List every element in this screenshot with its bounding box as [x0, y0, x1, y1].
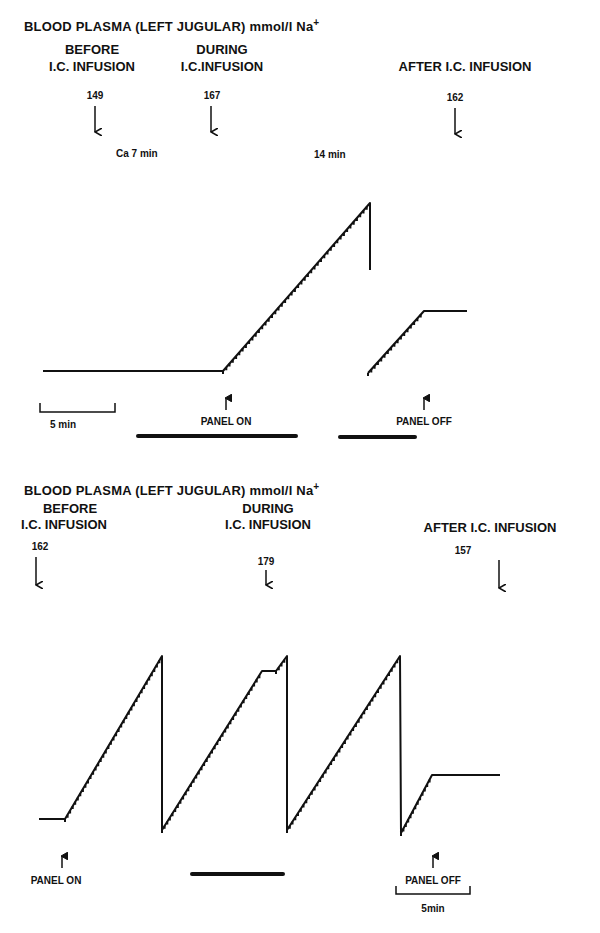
bottom-panel: BLOOD PLASMA (LEFT JUGULAR) mmol/l Na+ B…: [21, 481, 556, 914]
top-during-label-2: I.C.INFUSION: [181, 59, 263, 74]
figure: BLOOD PLASMA (LEFT JUGULAR) mmol/l Na+ B…: [0, 0, 600, 933]
bottom-panel-on-label: PANEL ON: [31, 875, 82, 886]
top-14min-note: 14 min: [314, 149, 346, 160]
top-before-label-1: BEFORE: [65, 42, 120, 57]
top-trace: [43, 203, 370, 371]
bottom-scale-label: 5min: [421, 903, 444, 914]
bottom-panel-off-label: PANEL OFF: [405, 875, 461, 886]
top-value-before: 149: [87, 90, 104, 101]
trace-texture: [65, 660, 430, 836]
bottom-during-label-1: DURING: [242, 501, 293, 516]
bottom-before-label-1: BEFORE: [43, 501, 98, 516]
top-during-label-1: DURING: [196, 42, 247, 57]
bottom-trace: [39, 656, 500, 833]
top-panel-off-label: PANEL OFF: [396, 416, 452, 427]
top-title: BLOOD PLASMA (LEFT JUGULAR) mmol/l Na+: [24, 17, 319, 34]
bottom-before-label-2: I.C. INFUSION: [21, 517, 107, 532]
top-value-during: 167: [204, 90, 221, 101]
bottom-scale-bar: [396, 886, 470, 894]
top-before-label-2: I.C. INFUSION: [49, 59, 135, 74]
bottom-value-during: 179: [258, 556, 275, 567]
bottom-after-label: AFTER I.C. INFUSION: [424, 520, 557, 535]
top-scale-bar: [40, 403, 115, 412]
bottom-value-before: 162: [32, 541, 49, 552]
top-panel: BLOOD PLASMA (LEFT JUGULAR) mmol/l Na+ B…: [24, 17, 531, 437]
top-panel-on-label: PANEL ON: [201, 416, 252, 427]
top-scale-label: 5 min: [50, 419, 76, 430]
top-value-after: 162: [447, 92, 464, 103]
top-after-label: AFTER I.C. INFUSION: [399, 59, 532, 74]
bottom-during-label-2: I.C. INFUSION: [225, 517, 311, 532]
bottom-title: BLOOD PLASMA (LEFT JUGULAR) mmol/l Na+: [24, 481, 319, 498]
top-ca-note: Ca 7 min: [116, 148, 158, 159]
bottom-value-after: 157: [455, 545, 472, 556]
